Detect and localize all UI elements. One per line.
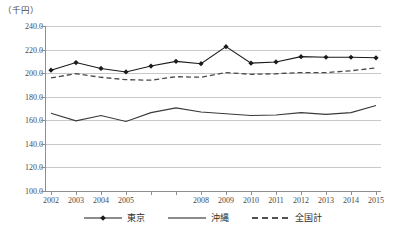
x-tick-label: 2010 xyxy=(243,196,259,205)
gridline xyxy=(46,73,381,74)
x-tick-mark xyxy=(301,191,302,195)
data-point-marker xyxy=(273,59,278,64)
y-tick-label: 100.0 xyxy=(3,187,43,196)
data-point-marker xyxy=(73,60,78,65)
y-axis-ticks: 240.0220.0200.0180.0160.0140.0120.0100.0 xyxy=(0,0,43,231)
x-tick-label: 2004 xyxy=(93,196,109,205)
x-tick-mark xyxy=(201,191,202,195)
x-tick-mark xyxy=(51,191,52,195)
data-point-marker xyxy=(173,59,178,64)
x-tick-label: 2013 xyxy=(318,196,334,205)
x-tick-label: 2003 xyxy=(68,196,84,205)
series-line xyxy=(51,106,376,122)
x-tick-mark xyxy=(76,191,77,195)
gridline xyxy=(46,144,381,145)
x-tick-mark xyxy=(226,191,227,195)
x-tick-label: 2012 xyxy=(293,196,309,205)
x-tick-mark xyxy=(276,191,277,195)
data-point-marker xyxy=(248,61,253,66)
chart-legend: 東京沖縄全国計 xyxy=(0,207,404,229)
data-point-marker xyxy=(298,54,303,59)
data-point-marker xyxy=(223,44,228,49)
legend-label: 東京 xyxy=(127,214,145,223)
y-tick-label: 220.0 xyxy=(3,45,43,54)
gridline xyxy=(46,97,381,98)
x-axis-line xyxy=(45,191,381,192)
x-tick-label: 2008 xyxy=(193,196,209,205)
data-point-marker xyxy=(348,55,353,60)
x-tick-mark xyxy=(176,191,177,195)
x-tick-label: 2011 xyxy=(268,196,284,205)
y-tick-label: 120.0 xyxy=(3,163,43,172)
x-tick-label: 2015 xyxy=(368,196,384,205)
y-tick-label: 180.0 xyxy=(3,92,43,101)
x-tick-mark xyxy=(376,191,377,195)
x-tick-label: 2014 xyxy=(343,196,359,205)
y-tick-label: 200.0 xyxy=(3,69,43,78)
data-point-marker xyxy=(48,68,53,73)
legend-item-沖縄[interactable]: 沖縄 xyxy=(167,213,229,223)
data-point-marker xyxy=(148,63,153,68)
x-tick-label: 2005 xyxy=(118,196,134,205)
data-point-marker xyxy=(373,55,378,60)
x-tick-mark xyxy=(351,191,352,195)
x-tick-mark xyxy=(126,191,127,195)
x-tick-label: 2002 xyxy=(43,196,59,205)
data-point-marker xyxy=(198,61,203,66)
y-tick-label: 140.0 xyxy=(3,139,43,148)
series-沖縄 xyxy=(51,106,376,122)
legend-swatch-icon xyxy=(167,213,207,223)
x-tick-mark xyxy=(251,191,252,195)
gridline xyxy=(46,120,381,121)
legend-label: 全国計 xyxy=(295,214,322,223)
x-tick-mark xyxy=(151,191,152,195)
gridline xyxy=(46,26,381,27)
y-axis-line xyxy=(45,26,46,192)
legend-item-東京[interactable]: 東京 xyxy=(83,213,145,223)
data-point-marker xyxy=(323,55,328,60)
gridline xyxy=(46,50,381,51)
x-tick-mark xyxy=(101,191,102,195)
data-point-marker xyxy=(98,66,103,71)
legend-swatch-icon xyxy=(83,213,123,223)
y-tick-label: 240.0 xyxy=(3,22,43,31)
x-tick-mark xyxy=(326,191,327,195)
legend-swatch-icon xyxy=(251,213,291,223)
gridline xyxy=(46,167,381,168)
line-chart: （千円） 240.0220.0200.0180.0160.0140.0120.0… xyxy=(0,0,404,231)
legend-item-全国計[interactable]: 全国計 xyxy=(251,213,322,223)
legend-label: 沖縄 xyxy=(211,214,229,223)
x-tick-label: 2009 xyxy=(218,196,234,205)
y-tick-label: 160.0 xyxy=(3,116,43,125)
